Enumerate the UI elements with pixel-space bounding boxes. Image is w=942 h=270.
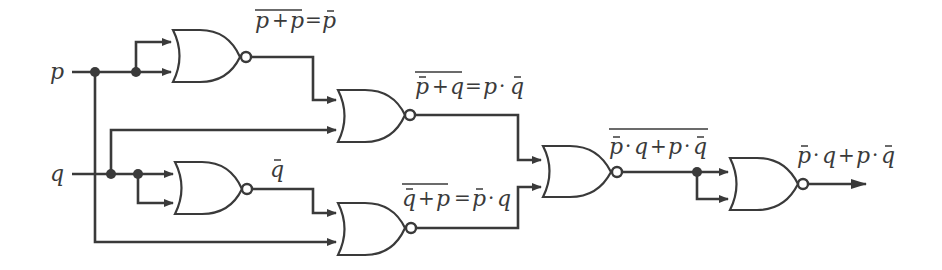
wire-g1-g2 — [251, 57, 336, 100]
junction-dot — [133, 169, 143, 179]
svg-text:+: + — [650, 134, 667, 158]
junction-dot — [106, 169, 116, 179]
svg-text:·: · — [488, 186, 494, 210]
svg-text:p: p — [290, 8, 304, 33]
svg-text:p: p — [483, 74, 497, 99]
svg-text:p: p — [255, 8, 269, 33]
svg-text:=: = — [305, 8, 322, 32]
junction-dot — [692, 167, 702, 177]
svg-text:q: q — [497, 186, 511, 211]
wire-g3-g4 — [252, 189, 336, 213]
svg-text:+: + — [838, 143, 855, 167]
junction-dot — [90, 67, 100, 77]
label-g1-output: p + p = p — [255, 8, 336, 33]
svg-text:·: · — [872, 143, 878, 167]
wire-g5-g6-b — [697, 172, 728, 199]
svg-text:q: q — [822, 143, 836, 168]
svg-text:·: · — [625, 134, 631, 158]
svg-text:+: + — [418, 186, 435, 210]
svg-text:p: p — [436, 186, 450, 211]
svg-text:p: p — [856, 143, 870, 168]
svg-text:=: = — [465, 74, 482, 98]
label-g2-output: p + q = p · q — [415, 72, 524, 99]
input-label-q: q — [50, 161, 64, 186]
svg-text:·: · — [813, 143, 819, 167]
nor-gate-3 — [175, 162, 252, 214]
label-g5-output: p · q + p · q — [609, 129, 708, 159]
svg-text:q: q — [450, 74, 464, 99]
svg-text:·: · — [684, 134, 690, 158]
svg-text:q: q — [634, 134, 648, 159]
label-g4-output: q + p = p · q — [402, 184, 511, 211]
wire-g2-g5 — [415, 115, 541, 160]
nor-xor-circuit: p q p + p = p p — [0, 0, 942, 270]
nor-gate-1 — [173, 30, 251, 82]
svg-text:·: · — [499, 74, 505, 98]
svg-text:=: = — [454, 186, 471, 210]
label-g6-output: p · q + p · q — [797, 143, 895, 168]
input-label-p: p — [50, 59, 64, 84]
svg-text:+: + — [272, 8, 289, 32]
nor-gate-2 — [338, 90, 415, 142]
svg-text:+: + — [432, 74, 449, 98]
svg-text:p: p — [668, 134, 682, 159]
label-g3-output: q — [270, 157, 284, 182]
junction-dot — [131, 67, 141, 77]
